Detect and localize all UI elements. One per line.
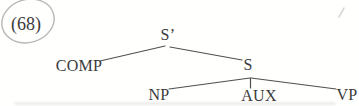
scan-artifact-smear: [14, 102, 336, 105]
node-np: NP: [148, 87, 169, 103]
stray-scan-mark: [339, 8, 344, 17]
edge-sbar-comp: [100, 46, 165, 61]
example-number: (68): [11, 15, 41, 33]
node-comp: COMP: [56, 58, 103, 74]
tree-lines-layer: [0, 0, 359, 106]
edge-sbar-s: [170, 47, 242, 60]
edge-s-np: [169, 78, 250, 89]
node-vp: VP: [336, 87, 357, 103]
node-s-bar: S’: [161, 27, 176, 43]
scanned-syntax-tree-figure: (68) S’ COMP S NP AUX VP: [0, 0, 359, 106]
node-s: S: [243, 57, 252, 73]
